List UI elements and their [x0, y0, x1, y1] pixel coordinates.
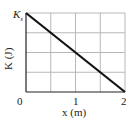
y-axis-label: K (J) [3, 48, 14, 70]
x-tick-0: 0 [17, 96, 23, 107]
x-axis-label: x (m) [62, 107, 86, 118]
x-axis-label-text: x (m) [62, 106, 86, 118]
y-axis-label-text: K (J) [2, 48, 14, 70]
x-tick-2: 2 [121, 96, 127, 107]
y-max-label: Ks [13, 9, 23, 25]
y-max-subscript: s [20, 15, 23, 23]
